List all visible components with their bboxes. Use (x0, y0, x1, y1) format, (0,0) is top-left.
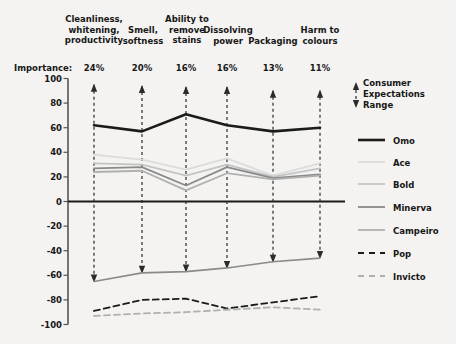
series-line-invicto (94, 307, 320, 316)
legend-range-down-arrow-icon (353, 100, 359, 108)
chart-canvas: Cleanliness, whitening, productivity Sme… (0, 0, 456, 344)
series-line-ace (94, 155, 320, 176)
legend-consumer-expectations-label: Consumer Expectations Range (363, 78, 425, 111)
consumer-expectations-range-layer (91, 84, 323, 283)
range-up-arrow-icon (317, 90, 323, 98)
legend-range-up-arrow-icon (353, 82, 359, 90)
legend-label-campeiro[interactable]: Campeiro (393, 226, 439, 236)
legend-label-bold[interactable]: Bold (393, 180, 414, 190)
series-line-omo (94, 114, 320, 131)
legend-label-minerva[interactable]: Minerva (393, 203, 432, 213)
plot-area (0, 0, 456, 344)
legend-label-invicto[interactable]: Invicto (393, 272, 426, 282)
range-up-arrow-icon (270, 90, 276, 98)
axis-layer (64, 79, 346, 325)
legend-label-ace[interactable]: Ace (393, 158, 410, 168)
range-up-arrow-icon (91, 84, 97, 92)
range-up-arrow-icon (224, 86, 230, 94)
legend-swatch-layer (353, 82, 385, 276)
series-layer (94, 114, 320, 316)
legend-label-omo[interactable]: Omo (393, 136, 415, 146)
series-line-bold (94, 163, 320, 177)
legend-label-pop[interactable]: Pop (393, 249, 411, 259)
range-up-arrow-icon (139, 85, 145, 93)
expectation-lower-bound-line (94, 258, 320, 281)
range-up-arrow-icon (183, 86, 189, 94)
